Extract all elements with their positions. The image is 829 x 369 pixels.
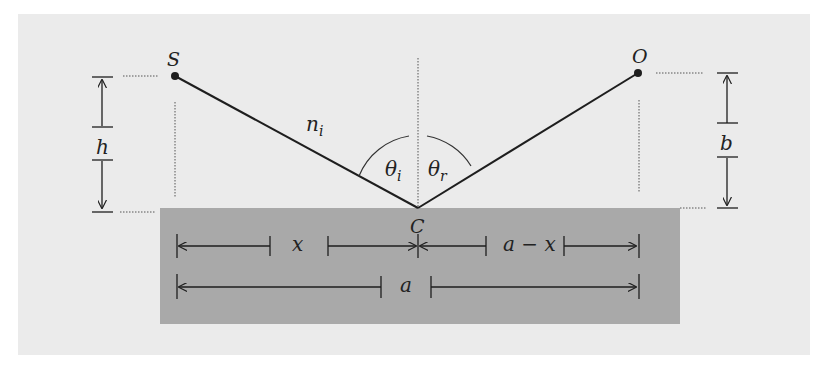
distance-a-minus-x-label: a − x	[503, 232, 556, 256]
height-b-label: b	[720, 131, 733, 155]
source-point	[171, 72, 179, 80]
distance-a-label: a	[400, 273, 412, 297]
observer-point	[634, 69, 642, 77]
height-h-label: h	[96, 135, 109, 159]
reflection-diagram: S O C ni θi θr h b x a − x a	[0, 0, 829, 369]
distance-x-label: x	[292, 232, 303, 256]
reflection-point-label: C	[410, 215, 425, 237]
observer-label: O	[632, 45, 648, 67]
source-label: S	[167, 48, 180, 70]
